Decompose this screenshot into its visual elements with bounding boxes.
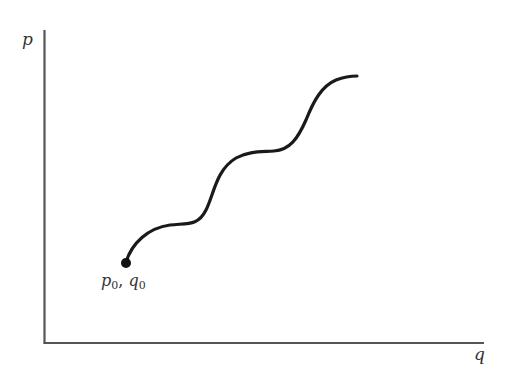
phase-diagram: p q p0, q0 <box>0 0 509 377</box>
diagram-canvas <box>0 0 509 377</box>
start-point-label: p0, q0 <box>101 273 146 291</box>
start-point-dot <box>121 258 131 268</box>
wavy-path-curve <box>126 76 357 262</box>
start-point-var2: q <box>128 271 138 290</box>
start-point-var1: p <box>101 271 111 290</box>
start-point-sub2: 0 <box>139 279 146 292</box>
x-axis-label: q <box>474 346 485 363</box>
y-axis-label: p <box>22 31 33 48</box>
start-point-separator: , <box>118 271 123 290</box>
